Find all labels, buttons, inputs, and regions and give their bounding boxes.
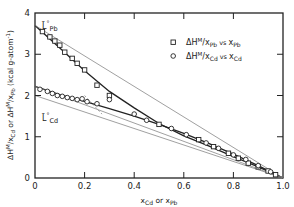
- circle-marker: [75, 97, 80, 102]
- circle-marker: [244, 157, 249, 162]
- data-markers: [38, 29, 278, 177]
- y-axis-title: ΔHM/xCd or ΔHM/xPb (kcal g-atom-1): [5, 30, 16, 160]
- annotation-l-cd: L̄°Cd: [41, 111, 58, 125]
- legend: ΔHM/xPb vs xPbΔHM/xCd vs xCd: [171, 37, 242, 62]
- plot-border: [35, 13, 283, 178]
- fit-lines: [35, 25, 283, 178]
- pb-tangent-line: [35, 25, 283, 178]
- circle-marker: [70, 96, 75, 101]
- circle-marker: [231, 153, 236, 158]
- circle-marker: [50, 91, 55, 96]
- x-axis-title: xCd or xPb: [141, 196, 178, 206]
- y-tick-label: 1: [25, 132, 30, 142]
- square-marker: [82, 68, 86, 72]
- square-marker: [226, 151, 230, 155]
- circle-marker: [95, 101, 100, 106]
- circle-marker: [60, 94, 65, 99]
- circle-marker: [85, 99, 90, 104]
- circle-marker: [204, 141, 209, 146]
- circle-marker: [169, 126, 174, 131]
- circle-marker: [38, 87, 43, 92]
- legend-square-icon: [171, 40, 175, 44]
- circle-marker: [55, 93, 60, 98]
- circle-marker: [80, 97, 85, 102]
- square-marker: [157, 122, 161, 126]
- circle-marker: [268, 170, 273, 175]
- y-tick-label: 4: [25, 8, 30, 18]
- x-tick-label: 0.4: [127, 181, 141, 191]
- square-marker: [273, 173, 277, 177]
- square-marker: [75, 61, 79, 65]
- circle-marker: [184, 132, 189, 137]
- y-tick-label: 3: [25, 49, 30, 59]
- circle-marker: [107, 97, 112, 102]
- y-tick-label: 2: [25, 91, 30, 101]
- y-tick-label: 0: [25, 173, 30, 183]
- x-tick-label: 0.6: [177, 181, 191, 191]
- legend-circle-icon: [171, 54, 176, 59]
- square-marker: [211, 144, 215, 148]
- square-marker: [48, 35, 52, 39]
- circle-marker: [65, 95, 70, 100]
- circle-marker: [45, 89, 50, 94]
- square-marker: [70, 56, 74, 60]
- x-tick-label: 0: [32, 181, 37, 191]
- circle-marker: [216, 146, 221, 151]
- x-tick-label: 0.2: [78, 181, 92, 191]
- square-marker: [95, 83, 99, 87]
- circle-marker: [144, 118, 149, 123]
- legend-label: ΔHM/xCd vs xCd: [186, 51, 242, 62]
- x-tick-label: 1.0: [276, 181, 290, 191]
- circle-marker: [256, 163, 261, 168]
- square-marker: [63, 50, 67, 54]
- circle-marker: [132, 112, 137, 117]
- square-marker: [58, 43, 62, 47]
- x-tick-label: 0.8: [227, 181, 241, 191]
- legend-label: ΔHM/xPb vs xPb: [186, 37, 241, 48]
- annotation-l-pb: L̄°Pb: [41, 19, 57, 33]
- plot-frame: [35, 13, 283, 178]
- square-marker: [236, 156, 240, 160]
- square-marker: [196, 137, 200, 141]
- square-marker: [53, 39, 57, 43]
- chart: 00.20.40.60.81.001234 L̄°PbL̄°CdxCd or x…: [0, 0, 294, 207]
